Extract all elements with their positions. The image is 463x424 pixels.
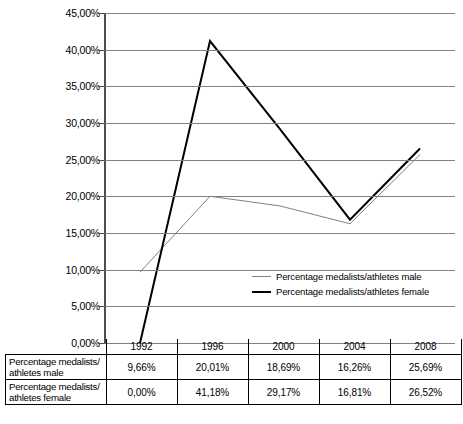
table-cell-female-2008: 26,52% bbox=[390, 380, 461, 405]
legend-label-male: Percentage medalists/athletes male bbox=[276, 271, 421, 282]
y-axis-tick-mark bbox=[98, 123, 105, 124]
legend-swatch-female-line-icon bbox=[252, 287, 271, 297]
gridline bbox=[105, 160, 455, 161]
table-cell-male-1992: 9,66% bbox=[106, 355, 177, 380]
y-axis-tick-mark bbox=[98, 86, 105, 87]
legend-item-female: Percentage medalists/athletes female bbox=[252, 285, 452, 298]
table-cell-male-2004: 16,26% bbox=[319, 355, 390, 380]
y-axis-tick-mark bbox=[98, 160, 105, 161]
y-axis-tick-label: 15,00% bbox=[42, 228, 100, 238]
chart-legend: Percentage medalists/athletes male Perce… bbox=[252, 270, 452, 300]
gridline bbox=[105, 306, 455, 307]
table-row-label-male-line1: Percentage medalists/ bbox=[9, 356, 100, 367]
y-axis-tick-label: 20,00% bbox=[42, 191, 100, 201]
table-cell-male-1996: 20,01% bbox=[177, 355, 248, 380]
table-row-label-male: Percentage medalists/ athletes male bbox=[6, 355, 107, 380]
table-column-header-2004: 2004 bbox=[319, 339, 390, 355]
table-cell-male-2008: 25,69% bbox=[390, 355, 461, 380]
table-cell-male-2000: 18,69% bbox=[248, 355, 319, 380]
gridline bbox=[105, 196, 455, 197]
table-column-header-1992: 1992 bbox=[106, 339, 177, 355]
data-table: 1992 1996 2000 2004 2008 Percentage meda… bbox=[5, 339, 462, 405]
chart-page: 45,00%40,00%35,00%30,00%25,00%20,00%15,0… bbox=[0, 0, 463, 424]
gridline bbox=[105, 123, 455, 124]
y-axis-tick-mark bbox=[98, 196, 105, 197]
y-axis-tick-label: 35,00% bbox=[42, 81, 100, 91]
y-axis-tick-mark bbox=[98, 270, 105, 271]
table-column-header-1996: 1996 bbox=[177, 339, 248, 355]
line-chart: 45,00%40,00%35,00%30,00%25,00%20,00%15,0… bbox=[0, 0, 463, 348]
series-line-male bbox=[140, 155, 420, 273]
legend-swatch-male-line-icon bbox=[252, 272, 271, 282]
table-column-header-2000: 2000 bbox=[248, 339, 319, 355]
table-row-label-female: Percentage medalists/ athletes female bbox=[6, 380, 107, 405]
gridline bbox=[105, 50, 455, 51]
legend-item-male: Percentage medalists/athletes male bbox=[252, 270, 452, 283]
gridline bbox=[105, 86, 455, 87]
y-axis-tick-label: 40,00% bbox=[42, 45, 100, 55]
table-header-row: 1992 1996 2000 2004 2008 bbox=[6, 339, 462, 355]
table-row: Percentage medalists/ athletes male 9,66… bbox=[6, 355, 462, 380]
table-row: Percentage medalists/ athletes female 0,… bbox=[6, 380, 462, 405]
y-axis-tick-label: 25,00% bbox=[42, 155, 100, 165]
y-axis-tick-label: 10,00% bbox=[42, 265, 100, 275]
y-axis-tick-label: 5,00% bbox=[42, 301, 100, 311]
table-cell-female-2000: 29,17% bbox=[248, 380, 319, 405]
y-axis-tick-mark bbox=[98, 306, 105, 307]
legend-label-female: Percentage medalists/athletes female bbox=[276, 286, 429, 297]
table-cell-female-1996: 41,18% bbox=[177, 380, 248, 405]
table-row-label-female-line2: athletes female bbox=[9, 392, 71, 403]
table-column-header-2008: 2008 bbox=[390, 339, 461, 355]
table-row-label-male-line2: athletes male bbox=[9, 367, 63, 378]
y-axis-tick-label: 30,00% bbox=[42, 118, 100, 128]
table-cell-female-2004: 16,81% bbox=[319, 380, 390, 405]
table-row-label-female-line1: Percentage medalists/ bbox=[9, 381, 100, 392]
y-axis-tick-mark bbox=[98, 50, 105, 51]
y-axis-tick-mark bbox=[98, 13, 105, 14]
y-axis-tick-mark bbox=[98, 233, 105, 234]
gridline bbox=[105, 233, 455, 234]
table-corner-cell bbox=[6, 339, 107, 355]
y-axis-tick-labels: 45,00%40,00%35,00%30,00%25,00%20,00%15,0… bbox=[40, 0, 100, 348]
y-axis-tick-label: 45,00% bbox=[42, 8, 100, 18]
gridline bbox=[105, 13, 455, 14]
table-cell-female-1992: 0,00% bbox=[106, 380, 177, 405]
